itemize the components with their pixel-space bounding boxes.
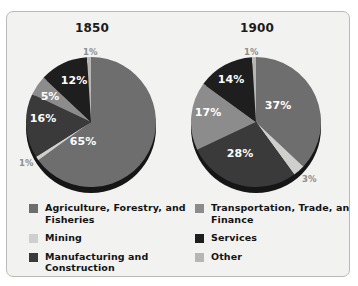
chart-legend: Agriculture, Forestry, and FisheriesMini… bbox=[7, 202, 350, 277]
pie-chart-1900: 37%28%17%14%3%1% bbox=[186, 50, 328, 196]
slice-label-transportation: 17% bbox=[195, 106, 221, 119]
pie-svg: 65%16%5%12% bbox=[21, 50, 163, 196]
legend-item[interactable]: Mining bbox=[29, 232, 197, 244]
slice-label-mining: 1% bbox=[19, 158, 33, 168]
slice-label-other: 1% bbox=[244, 47, 258, 57]
legend-item-label: Agriculture, Forestry, and Fisheries bbox=[45, 202, 197, 225]
legend-item[interactable]: Manufacturing and Construction bbox=[29, 251, 197, 274]
slice-label-transportation: 5% bbox=[41, 90, 60, 103]
legend-column-left: Agriculture, Forestry, and FisheriesMini… bbox=[29, 202, 197, 277]
slice-label-manufacturing: 16% bbox=[30, 112, 56, 125]
slice-label-services: 12% bbox=[61, 74, 87, 87]
legend-swatch-icon bbox=[29, 253, 38, 262]
legend-item-label: Transportation, Trade, and Finance bbox=[211, 202, 350, 225]
slice-label-mining: 3% bbox=[302, 174, 316, 184]
chart-title-1850: 1850 bbox=[22, 21, 162, 35]
legend-swatch-icon bbox=[195, 253, 204, 262]
slice-label-agriculture: 37% bbox=[265, 99, 291, 112]
chart-title-1900: 1900 bbox=[187, 21, 327, 35]
legend-item[interactable]: Agriculture, Forestry, and Fisheries bbox=[29, 202, 197, 225]
legend-item[interactable]: Other bbox=[195, 251, 350, 263]
legend-item-label: Other bbox=[211, 251, 242, 263]
legend-swatch-icon bbox=[195, 234, 204, 243]
legend-item-label: Manufacturing and Construction bbox=[45, 251, 197, 274]
chart-figure-frame: 1850 1900 65%16%5%12%1%1% 37%28%17%14%3%… bbox=[6, 11, 350, 277]
legend-item-label: Mining bbox=[45, 232, 82, 244]
legend-item[interactable]: Transportation, Trade, and Finance bbox=[195, 202, 350, 225]
slice-label-agriculture: 65% bbox=[70, 135, 96, 148]
slice-label-services: 14% bbox=[218, 73, 244, 86]
legend-swatch-icon bbox=[195, 204, 204, 213]
pie-chart-1850: 65%16%5%12%1%1% bbox=[21, 50, 163, 196]
legend-swatch-icon bbox=[29, 204, 38, 213]
legend-swatch-icon bbox=[29, 234, 38, 243]
legend-column-right: Transportation, Trade, and FinanceServic… bbox=[195, 202, 350, 269]
slice-label-manufacturing: 28% bbox=[227, 147, 253, 160]
legend-item-label: Services bbox=[211, 232, 257, 244]
slice-label-other: 1% bbox=[83, 47, 97, 57]
legend-item[interactable]: Services bbox=[195, 232, 350, 244]
